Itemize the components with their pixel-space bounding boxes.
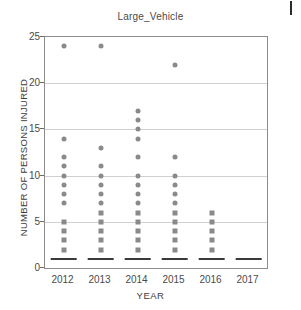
- baseline-bar: [235, 258, 262, 260]
- data-point: [98, 219, 103, 224]
- data-point: [172, 201, 177, 206]
- gridline: [45, 176, 267, 177]
- data-point: [172, 219, 177, 224]
- y-tick-mark: [40, 267, 44, 268]
- x-axis-label: YEAR: [0, 290, 301, 301]
- chart-title: Large_Vehicle: [0, 11, 301, 22]
- data-point: [209, 229, 214, 234]
- data-point: [135, 238, 140, 243]
- data-point: [209, 247, 214, 252]
- data-point: [135, 155, 140, 160]
- baseline-bar: [87, 258, 114, 260]
- data-point: [61, 44, 66, 49]
- data-point: [61, 238, 66, 243]
- data-point: [172, 229, 177, 234]
- data-point: [135, 118, 140, 123]
- y-tick-mark: [40, 128, 44, 129]
- data-point: [135, 173, 140, 178]
- data-point: [61, 219, 66, 224]
- data-point: [135, 182, 140, 187]
- data-point: [61, 164, 66, 169]
- data-point: [135, 108, 140, 113]
- y-tick-label: 5: [14, 215, 40, 226]
- data-point: [98, 173, 103, 178]
- data-point: [61, 136, 66, 141]
- y-tick-mark: [40, 82, 44, 83]
- data-point: [98, 192, 103, 197]
- baseline-bar: [124, 258, 151, 260]
- baseline-bar: [198, 258, 225, 260]
- data-point: [61, 201, 66, 206]
- y-tick-label: 10: [14, 169, 40, 180]
- data-point: [98, 145, 103, 150]
- data-point: [98, 238, 103, 243]
- data-point: [98, 229, 103, 234]
- data-point: [172, 173, 177, 178]
- data-point: [98, 164, 103, 169]
- data-point: [135, 219, 140, 224]
- data-point: [209, 238, 214, 243]
- data-point: [172, 182, 177, 187]
- x-tick-label: 2013: [88, 274, 110, 285]
- data-point: [172, 210, 177, 215]
- data-point: [209, 210, 214, 215]
- y-tick-mark: [40, 175, 44, 176]
- x-tick-label: 2016: [199, 274, 221, 285]
- data-point: [98, 210, 103, 215]
- gridline: [45, 129, 267, 130]
- data-point: [61, 192, 66, 197]
- data-point: [61, 229, 66, 234]
- data-point: [98, 44, 103, 49]
- data-point: [135, 247, 140, 252]
- y-tick-label: 25: [14, 31, 40, 42]
- baseline-bar: [50, 258, 77, 260]
- data-point: [61, 173, 66, 178]
- x-tick-label: 2015: [162, 274, 184, 285]
- gridline: [45, 83, 267, 84]
- chart-figure: Large_Vehicle NUMBER OF PERSONS INJURED …: [0, 0, 301, 310]
- y-tick-label: 0: [14, 262, 40, 273]
- data-point: [172, 238, 177, 243]
- data-point: [172, 247, 177, 252]
- x-tick-label: 2017: [236, 274, 258, 285]
- data-point: [98, 182, 103, 187]
- data-point: [135, 127, 140, 132]
- data-point: [172, 192, 177, 197]
- data-point: [209, 219, 214, 224]
- data-point: [98, 201, 103, 206]
- plot-area: [44, 36, 268, 269]
- data-point: [135, 229, 140, 234]
- data-point: [172, 155, 177, 160]
- y-tick-mark: [40, 221, 44, 222]
- data-point: [61, 247, 66, 252]
- y-tick-mark: [40, 36, 44, 37]
- x-tick-label: 2014: [125, 274, 147, 285]
- data-point: [135, 210, 140, 215]
- data-point: [135, 136, 140, 141]
- data-point: [98, 247, 103, 252]
- gridline: [45, 222, 267, 223]
- baseline-bar: [161, 258, 188, 260]
- data-point: [61, 155, 66, 160]
- data-point: [135, 192, 140, 197]
- data-point: [172, 62, 177, 67]
- y-tick-label: 15: [14, 123, 40, 134]
- y-tick-label: 20: [14, 77, 40, 88]
- x-tick-label: 2012: [51, 274, 73, 285]
- data-point: [135, 201, 140, 206]
- data-point: [61, 182, 66, 187]
